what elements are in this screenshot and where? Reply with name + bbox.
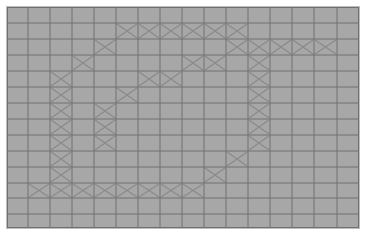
grid-cell-r0-c5[interactable] — [116, 7, 138, 23]
grid-cell-r4-c1[interactable] — [28, 71, 50, 87]
grid-cell-r3-c6[interactable] — [138, 55, 160, 71]
grid-cell-r8-c8[interactable] — [182, 135, 204, 151]
grid-cell-r12-c9[interactable] — [204, 198, 226, 214]
game-board[interactable] — [7, 7, 359, 228]
grid-cell-r13-c12[interactable] — [270, 214, 292, 228]
grid-cell-r9-c11[interactable] — [248, 151, 270, 167]
grid-cell-r9-c1[interactable] — [28, 151, 50, 167]
grid-cell-r11-c11[interactable] — [248, 183, 270, 198]
grid-cell-r10-c8[interactable] — [182, 167, 204, 183]
grid-cell-r13-c13[interactable] — [292, 214, 314, 228]
grid-cell-r12-c3[interactable] — [72, 198, 94, 214]
grid-cell-r7-c15[interactable] — [337, 119, 359, 135]
grid-cell-r11-c9[interactable] — [204, 183, 226, 198]
grid-cell-r13-c2[interactable] — [50, 214, 72, 228]
grid-cell-r2-c6[interactable] — [138, 39, 160, 55]
grid-cell-r0-c9[interactable] — [204, 7, 226, 23]
grid-cell-r10-c10[interactable] — [226, 167, 248, 183]
grid-cell-r9-c6[interactable] — [138, 151, 160, 167]
grid-cell-r13-c15[interactable] — [337, 214, 359, 228]
grid-cell-r5-c12[interactable] — [270, 87, 292, 103]
grid-cell-r1-c14[interactable] — [314, 23, 337, 39]
grid-cell-r13-c11[interactable] — [248, 214, 270, 228]
grid-cell-r12-c12[interactable] — [270, 198, 292, 214]
grid-cell-r0-c11[interactable] — [248, 7, 270, 23]
grid-cell-r0-c4[interactable] — [94, 7, 116, 23]
grid-cell-r2-c3[interactable] — [72, 39, 94, 55]
grid-cell-r12-c13[interactable] — [292, 198, 314, 214]
grid-cell-r3-c7[interactable] — [160, 55, 182, 71]
grid-cell-r11-c13[interactable] — [292, 183, 314, 198]
grid-cell-r13-c8[interactable] — [182, 214, 204, 228]
grid-cell-r6-c9[interactable] — [204, 103, 226, 119]
grid-cell-r9-c3[interactable] — [72, 151, 94, 167]
grid-cell-r4-c8[interactable] — [182, 71, 204, 87]
grid-cell-r3-c2[interactable] — [50, 55, 72, 71]
grid-cell-r7-c1[interactable] — [28, 119, 50, 135]
grid-cell-r5-c15[interactable] — [337, 87, 359, 103]
grid-cell-r3-c13[interactable] — [292, 55, 314, 71]
grid-cell-r13-c0[interactable] — [7, 214, 28, 228]
grid-cell-r7-c5[interactable] — [116, 119, 138, 135]
grid-cell-r8-c15[interactable] — [337, 135, 359, 151]
grid-cell-r12-c14[interactable] — [314, 198, 337, 214]
grid-cell-r4-c15[interactable] — [337, 71, 359, 87]
grid-cell-r9-c5[interactable] — [116, 151, 138, 167]
grid-cell-r1-c1[interactable] — [28, 23, 50, 39]
grid-cell-r3-c5[interactable] — [116, 55, 138, 71]
grid-cell-r2-c5[interactable] — [116, 39, 138, 55]
grid-cell-r7-c8[interactable] — [182, 119, 204, 135]
grid-cell-r13-c14[interactable] — [314, 214, 337, 228]
grid-cell-r13-c10[interactable] — [226, 214, 248, 228]
grid-cell-r0-c2[interactable] — [50, 7, 72, 23]
grid-cell-r1-c4[interactable] — [94, 23, 116, 39]
grid-cell-r0-c0[interactable] — [7, 7, 28, 23]
grid-cell-r11-c14[interactable] — [314, 183, 337, 198]
grid-cell-r0-c3[interactable] — [72, 7, 94, 23]
grid-cell-r6-c12[interactable] — [270, 103, 292, 119]
grid-cell-r6-c8[interactable] — [182, 103, 204, 119]
grid-cell-r1-c3[interactable] — [72, 23, 94, 39]
grid-cell-r13-c1[interactable] — [28, 214, 50, 228]
grid-cell-r3-c4[interactable] — [94, 55, 116, 71]
grid-cell-r12-c4[interactable] — [94, 198, 116, 214]
grid-cell-r6-c7[interactable] — [160, 103, 182, 119]
grid-cell-r8-c3[interactable] — [72, 135, 94, 151]
grid-cell-r0-c12[interactable] — [270, 7, 292, 23]
grid-cell-r5-c7[interactable] — [160, 87, 182, 103]
grid-cell-r0-c8[interactable] — [182, 7, 204, 23]
grid-cell-r10-c13[interactable] — [292, 167, 314, 183]
grid-cell-r5-c13[interactable] — [292, 87, 314, 103]
grid-cell-r12-c11[interactable] — [248, 198, 270, 214]
grid-cell-r10-c0[interactable] — [7, 167, 28, 183]
grid-cell-r9-c15[interactable] — [337, 151, 359, 167]
grid-cell-r9-c13[interactable] — [292, 151, 314, 167]
grid-cell-r3-c12[interactable] — [270, 55, 292, 71]
grid-cell-r6-c0[interactable] — [7, 103, 28, 119]
grid-cell-r3-c15[interactable] — [337, 55, 359, 71]
grid-cell-r8-c6[interactable] — [138, 135, 160, 151]
grid-cell-r6-c13[interactable] — [292, 103, 314, 119]
grid-cell-r13-c4[interactable] — [94, 214, 116, 228]
grid-cell-r8-c5[interactable] — [116, 135, 138, 151]
grid-cell-r13-c6[interactable] — [138, 214, 160, 228]
grid-cell-r1-c2[interactable] — [50, 23, 72, 39]
grid-cell-r4-c9[interactable] — [204, 71, 226, 87]
grid-cell-r10-c14[interactable] — [314, 167, 337, 183]
grid-cell-r12-c1[interactable] — [28, 198, 50, 214]
grid-cell-r0-c6[interactable] — [138, 7, 160, 23]
grid-cell-r4-c0[interactable] — [7, 71, 28, 87]
grid-cell-r11-c12[interactable] — [270, 183, 292, 198]
grid-cell-r0-c15[interactable] — [337, 7, 359, 23]
grid-cell-r2-c0[interactable] — [7, 39, 28, 55]
grid-cell-r9-c4[interactable] — [94, 151, 116, 167]
grid-cell-r7-c12[interactable] — [270, 119, 292, 135]
grid-cell-r11-c15[interactable] — [337, 183, 359, 198]
grid-cells[interactable] — [7, 7, 359, 228]
grid-cell-r10-c11[interactable] — [248, 167, 270, 183]
grid-cell-r9-c8[interactable] — [182, 151, 204, 167]
grid-cell-r0-c10[interactable] — [226, 7, 248, 23]
grid-cell-r1-c15[interactable] — [337, 23, 359, 39]
grid-cell-r1-c13[interactable] — [292, 23, 314, 39]
grid-cell-r4-c3[interactable] — [72, 71, 94, 87]
